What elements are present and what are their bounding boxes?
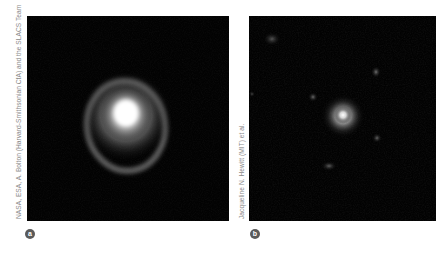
panel-label-a: a [25, 229, 35, 239]
field-object [371, 66, 381, 78]
galaxy-ring-image [27, 16, 229, 221]
photo-credit-a: NASA, ESA, A. Bolton (Harvard-Smithsonia… [15, 5, 22, 219]
field-object [321, 161, 337, 171]
galaxy-field-graphic [249, 16, 436, 221]
photo-credit-b: Jacqueline N. Hewitt (MIT) et al. [238, 124, 245, 219]
einstein-ring-graphic [27, 16, 229, 221]
galaxy-core [334, 106, 352, 124]
field-object [308, 92, 318, 102]
field-object [263, 32, 281, 46]
field-object [372, 133, 382, 143]
panel-label-b: b [250, 229, 260, 239]
field-object [249, 91, 255, 97]
galaxy-field-image [249, 16, 436, 221]
